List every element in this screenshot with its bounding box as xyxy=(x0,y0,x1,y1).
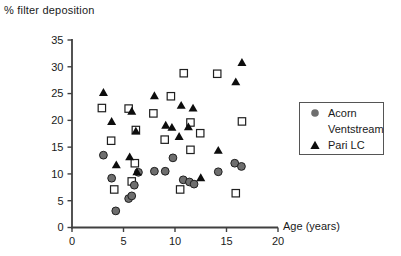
x-axis-title: Age (years) xyxy=(283,220,340,232)
y-tick-label-15: 15 xyxy=(51,141,63,153)
legend-item-pari-lc: Pari LC xyxy=(309,138,383,151)
data-point-ventstream-15 xyxy=(214,70,221,77)
scatter-chart: % filter deposition 05101520051015202530… xyxy=(0,0,401,256)
y-tick-label-10: 10 xyxy=(51,168,63,180)
y-tick-label-30: 30 xyxy=(51,61,63,73)
circle-marker-icon xyxy=(309,107,321,119)
data-point-ventstream-0 xyxy=(98,104,105,111)
y-tick-label-20: 20 xyxy=(51,114,63,126)
y-tick-label-5: 5 xyxy=(57,195,63,207)
data-point-ventstream-1 xyxy=(107,137,114,144)
data-point-pari-lc-14 xyxy=(196,173,205,181)
data-point-ventstream-10 xyxy=(176,186,183,193)
y-tick-label-35: 35 xyxy=(51,34,63,46)
data-point-acorn-0 xyxy=(100,151,108,159)
data-point-acorn-5 xyxy=(130,181,138,189)
data-point-ventstream-17 xyxy=(238,118,245,125)
x-tick-label-10: 10 xyxy=(169,235,181,247)
data-point-ventstream-8 xyxy=(161,136,168,143)
data-point-pari-lc-1 xyxy=(107,117,116,125)
legend-label-ventstream: Ventstream xyxy=(328,123,384,135)
data-point-pari-lc-10 xyxy=(175,132,184,140)
triangle-marker-icon xyxy=(309,139,321,151)
data-point-pari-lc-17 xyxy=(237,58,246,66)
data-point-ventstream-14 xyxy=(197,130,204,137)
legend-item-ventstream: Ventstream xyxy=(309,122,383,135)
data-point-pari-lc-3 xyxy=(125,152,134,160)
data-point-ventstream-11 xyxy=(180,70,187,77)
data-point-pari-lc-15 xyxy=(214,146,223,154)
circle-marker-shape xyxy=(311,109,319,117)
legend-label-pari-lc: Pari LC xyxy=(328,139,365,151)
data-point-acorn-9 xyxy=(169,154,177,162)
x-tick-label-15: 15 xyxy=(220,235,232,247)
data-point-pari-lc-16 xyxy=(231,77,240,85)
data-point-acorn-2 xyxy=(112,207,120,215)
data-point-ventstream-16 xyxy=(232,190,239,197)
data-point-ventstream-13 xyxy=(187,146,194,153)
data-point-pari-lc-2 xyxy=(112,160,121,168)
legend-item-acorn: Acorn xyxy=(309,106,383,119)
data-point-pari-lc-0 xyxy=(99,88,108,96)
data-point-pari-lc-11 xyxy=(177,101,186,109)
y-tick-label-25: 25 xyxy=(51,87,63,99)
triangle-marker-shape xyxy=(310,140,319,148)
data-point-acorn-1 xyxy=(108,174,116,182)
legend-label-acorn: Acorn xyxy=(328,107,357,119)
data-point-acorn-7 xyxy=(151,167,159,175)
data-point-acorn-15 xyxy=(238,163,246,171)
data-point-acorn-8 xyxy=(161,167,169,175)
x-tick-label-5: 5 xyxy=(120,235,126,247)
square-marker-icon xyxy=(309,123,321,135)
data-point-acorn-13 xyxy=(214,168,222,176)
data-point-ventstream-9 xyxy=(167,93,174,100)
data-point-pari-lc-13 xyxy=(189,104,198,112)
data-point-acorn-4 xyxy=(128,192,136,200)
data-point-ventstream-7 xyxy=(150,110,157,117)
x-tick-label-20: 20 xyxy=(272,235,284,247)
data-point-ventstream-5 xyxy=(131,160,138,167)
data-point-pari-lc-7 xyxy=(150,91,159,99)
y-tick-label-0: 0 xyxy=(57,221,63,233)
data-point-ventstream-2 xyxy=(111,186,118,193)
x-tick-label-0: 0 xyxy=(69,235,75,247)
data-point-pari-lc-8 xyxy=(161,121,170,129)
legend: Acorn Ventstream Pari LC xyxy=(299,102,384,155)
data-point-acorn-12 xyxy=(190,180,198,188)
square-marker-shape xyxy=(312,125,319,132)
